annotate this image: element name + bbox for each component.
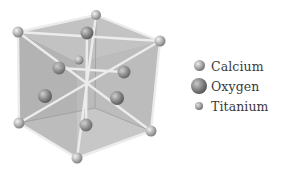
legend-label-oxygen: Oxygen (211, 79, 259, 94)
legend-item-calcium: Calcium (186, 56, 282, 76)
oxygen-sphere-icon (190, 77, 208, 95)
legend-item-titanium: Titanium (186, 96, 282, 116)
legend-label-titanium: Titanium (211, 99, 269, 114)
legend-label-calcium: Calcium (211, 59, 264, 74)
legend-item-oxygen: Oxygen (186, 76, 282, 96)
perovskite-crystal-diagram (0, 0, 180, 177)
titanium-atom (75, 56, 84, 65)
legend: Calcium Oxygen Titanium (186, 56, 282, 116)
titanium-sphere-icon (194, 101, 204, 111)
calcium-sphere-icon (193, 59, 206, 72)
